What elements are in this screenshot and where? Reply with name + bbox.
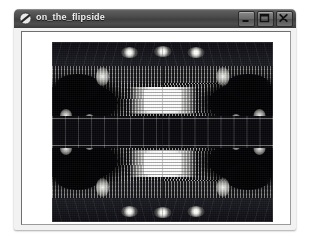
hall-scene: [163, 132, 274, 222]
ceiling: [163, 195, 274, 222]
window-titlebar[interactable]: on_the_flipside: [14, 9, 296, 28]
image-viewer-client-area: [21, 31, 291, 225]
ceiling: [52, 195, 163, 222]
photo-quadrant-bottom-right: [163, 132, 274, 222]
foreground-silhouette: [54, 74, 100, 101]
photo-quadrant-top-right: [163, 42, 274, 132]
app-circle-slash-icon: [19, 12, 32, 25]
hall-scene: [52, 42, 163, 132]
stage-scanlines: [163, 87, 199, 114]
lit-figure: [216, 178, 229, 197]
hall-scene: [52, 132, 163, 222]
ceiling-light: [121, 47, 138, 58]
ceiling: [163, 42, 274, 69]
close-button[interactable]: [276, 11, 293, 27]
foreground-silhouette: [224, 163, 270, 190]
lit-figure: [216, 67, 229, 86]
photo-frame: [52, 42, 273, 222]
photo-quadrant-bottom-left: [52, 132, 163, 222]
application-window: on_the_flipside: [14, 9, 296, 230]
railing: [52, 146, 163, 147]
railing: [52, 118, 163, 119]
railing: [163, 146, 274, 147]
lit-figure: [96, 178, 109, 197]
railing: [163, 118, 274, 119]
minimize-button[interactable]: [238, 11, 255, 27]
stage-scanlines: [126, 87, 162, 114]
ceiling-light: [188, 47, 205, 58]
maximize-button[interactable]: [257, 11, 274, 27]
photo-bottom-half: [52, 132, 273, 222]
photo-top-half: [52, 42, 273, 132]
hall-scene: [163, 42, 274, 132]
photo-quadrant-top-left: [52, 42, 163, 132]
screen: on_the_flipside: [0, 0, 310, 242]
window-controls: [238, 11, 293, 27]
foreground-silhouette: [224, 74, 270, 101]
stage-scanlines: [163, 150, 199, 177]
foreground-silhouette: [54, 163, 100, 190]
ceiling: [52, 42, 163, 69]
mirrored-photograph: [52, 42, 273, 222]
stage-scanlines: [126, 150, 162, 177]
window-title: on_the_flipside: [36, 12, 105, 22]
